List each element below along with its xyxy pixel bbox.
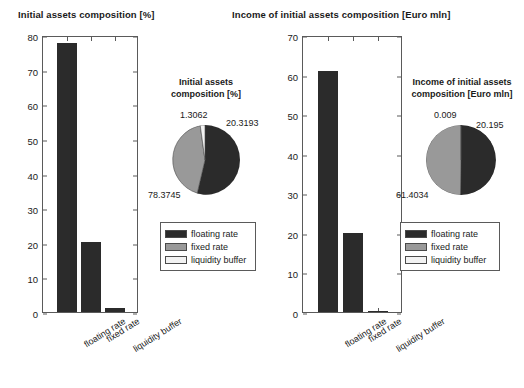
right-legend-label-liquidity-buffer: liquidity buffer bbox=[431, 255, 486, 265]
swatch-floating-rate-icon bbox=[165, 230, 187, 238]
left-bar-fixed-rate bbox=[81, 242, 101, 312]
right-bar-fixed-rate bbox=[343, 233, 363, 312]
right-legend-label-fixed-rate: fixed rate bbox=[431, 242, 468, 252]
right-legend: floating rate fixed rate liquidity buffe… bbox=[400, 222, 500, 271]
left-pie-value-liquidity-buffer: 1.3062 bbox=[180, 110, 208, 120]
left-pie-title: Initial assets composition [%] bbox=[150, 76, 262, 100]
right-ytick-30: 30 bbox=[287, 190, 298, 201]
left-ytick-40: 40 bbox=[27, 170, 38, 181]
right-legend-row-liquidity-buffer: liquidity buffer bbox=[405, 253, 494, 266]
right-pie-value-fixed-rate: 20.195 bbox=[476, 120, 504, 130]
right-chart-title: Income of initial assets composition [Eu… bbox=[232, 9, 450, 20]
right-ytick-0: 0 bbox=[293, 309, 298, 320]
left-legend-label-liquidity-buffer: liquidity buffer bbox=[191, 255, 246, 265]
right-ytick-40: 40 bbox=[287, 150, 298, 161]
left-pie-title-line2: composition [%] bbox=[150, 88, 262, 100]
left-legend-row-liquidity-buffer: liquidity buffer bbox=[165, 253, 250, 266]
left-ytick-20: 20 bbox=[27, 239, 38, 250]
right-ytick-10: 10 bbox=[287, 269, 298, 280]
left-pie-value-fixed-rate: 20.3193 bbox=[226, 118, 259, 128]
right-ytick-50: 50 bbox=[287, 111, 298, 122]
right-ytick-60: 60 bbox=[287, 71, 298, 82]
left-ytick-70: 70 bbox=[27, 66, 38, 77]
right-ytick-20: 20 bbox=[287, 229, 298, 240]
right-bar-axes: 70 60 50 40 30 20 10 0 floating rate bbox=[302, 36, 402, 313]
left-pie-title-line1: Initial assets bbox=[150, 76, 262, 88]
left-bar-liquidity-buffer bbox=[105, 308, 125, 312]
left-legend: floating rate fixed rate liquidity buffe… bbox=[160, 222, 256, 271]
right-pie-value-floating-rate: 61.4034 bbox=[396, 190, 429, 200]
left-legend-row-floating-rate: floating rate bbox=[165, 227, 250, 240]
left-legend-label-floating-rate: floating rate bbox=[191, 229, 238, 239]
right-pie-title: Income of initial assets composition [Eu… bbox=[400, 76, 524, 100]
figure-canvas: { "colors": { "floating_rate": "#2b2b2b"… bbox=[0, 0, 524, 388]
right-xlabel-liquidity-buffer: liquidity buffer bbox=[394, 316, 446, 354]
swatch-floating-rate-icon bbox=[405, 230, 427, 238]
left-ytick-80: 80 bbox=[27, 32, 38, 43]
right-legend-row-fixed-rate: fixed rate bbox=[405, 240, 494, 253]
panel-income-initial-assets: Income of initial assets composition [Eu… bbox=[262, 0, 524, 388]
right-pie-title-line2: composition [Euro mln] bbox=[400, 88, 524, 100]
right-bar-floating-rate bbox=[318, 71, 338, 312]
left-ytick-0: 0 bbox=[33, 309, 38, 320]
right-bar-liquidity-buffer bbox=[368, 311, 388, 312]
swatch-liquidity-buffer-icon bbox=[405, 256, 427, 264]
left-pie-value-floating-rate: 78.3745 bbox=[148, 190, 181, 200]
left-ytick-30: 30 bbox=[27, 205, 38, 216]
right-pie-chart bbox=[426, 125, 496, 195]
left-ytick-10: 10 bbox=[27, 274, 38, 285]
right-pie-title-line1: Income of initial assets bbox=[400, 76, 524, 88]
left-bar-floating-rate bbox=[57, 43, 77, 312]
right-pie-svg bbox=[426, 125, 496, 195]
left-pie-chart bbox=[170, 125, 240, 195]
panel-initial-assets: Initial assets composition [%] 80 70 60 … bbox=[0, 0, 262, 388]
left-ytick-60: 60 bbox=[27, 101, 38, 112]
left-chart-title: Initial assets composition [%] bbox=[18, 9, 155, 20]
swatch-fixed-rate-icon bbox=[405, 243, 427, 251]
swatch-fixed-rate-icon bbox=[165, 243, 187, 251]
right-ytick-70: 70 bbox=[287, 32, 298, 43]
left-pie-svg bbox=[170, 125, 240, 195]
right-legend-row-floating-rate: floating rate bbox=[405, 227, 494, 240]
left-bar-axes: 80 70 60 50 40 30 20 10 0 bbox=[42, 36, 138, 313]
left-legend-row-fixed-rate: fixed rate bbox=[165, 240, 250, 253]
left-ytick-50: 50 bbox=[27, 135, 38, 146]
swatch-liquidity-buffer-icon bbox=[165, 256, 187, 264]
right-pie-value-liquidity-buffer: 0.009 bbox=[434, 110, 457, 120]
right-legend-label-floating-rate: floating rate bbox=[431, 229, 478, 239]
left-legend-label-fixed-rate: fixed rate bbox=[191, 242, 228, 252]
